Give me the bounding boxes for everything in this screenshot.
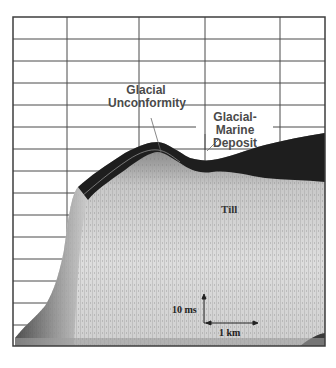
seismic-profile-figure: Glacial Unconformity Glacial-Marine Depo… [0,0,336,368]
horizontal-scale-label: 1 km [219,327,240,339]
vertical-scale-label: 10 ms [172,304,197,316]
glacial-unconformity-label: Glacial Unconformity [108,84,184,110]
till-label: Till [221,203,237,215]
glacial-marine-deposit-label: Glacial-Marine Deposit [194,111,276,150]
seismic-profile-svg [0,0,336,368]
